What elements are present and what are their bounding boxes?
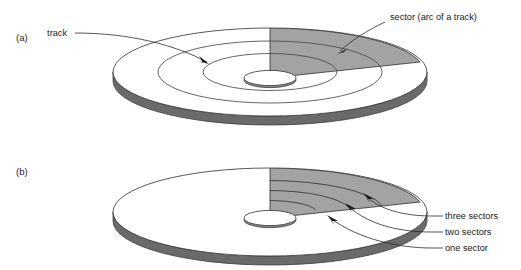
three-sectors-label: three sectors [445,211,499,221]
track-label: track [47,28,67,38]
sector-label: sector (arc of a track) [390,12,477,22]
hub-hole-b [244,210,296,225]
panel-a-marker: (a) [16,32,28,43]
panel-a: (a) track sector (arc of a track) [16,12,477,125]
figure-root: (a) track sector (arc of a track) (b) [0,0,521,270]
disk-sectors-diagram: (a) track sector (arc of a track) (b) [0,0,521,270]
panel-b: (b) three sectors two [16,166,499,265]
two-sectors-label: two sectors [445,227,492,237]
hub-hole-a [244,70,296,85]
panel-b-marker: (b) [16,166,28,177]
one-sector-label: one sector [445,243,488,253]
